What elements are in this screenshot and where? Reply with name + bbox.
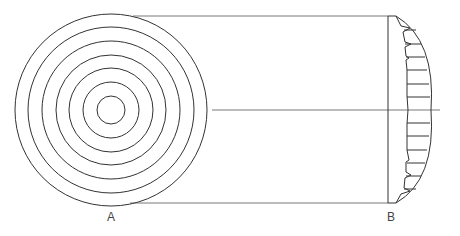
concentric-rings xyxy=(15,14,207,206)
diagram-canvas xyxy=(0,0,460,236)
label-b: B xyxy=(387,210,395,224)
projection-lines xyxy=(130,16,440,203)
fresnel-lens-profile xyxy=(388,16,432,203)
label-a: A xyxy=(107,210,115,224)
